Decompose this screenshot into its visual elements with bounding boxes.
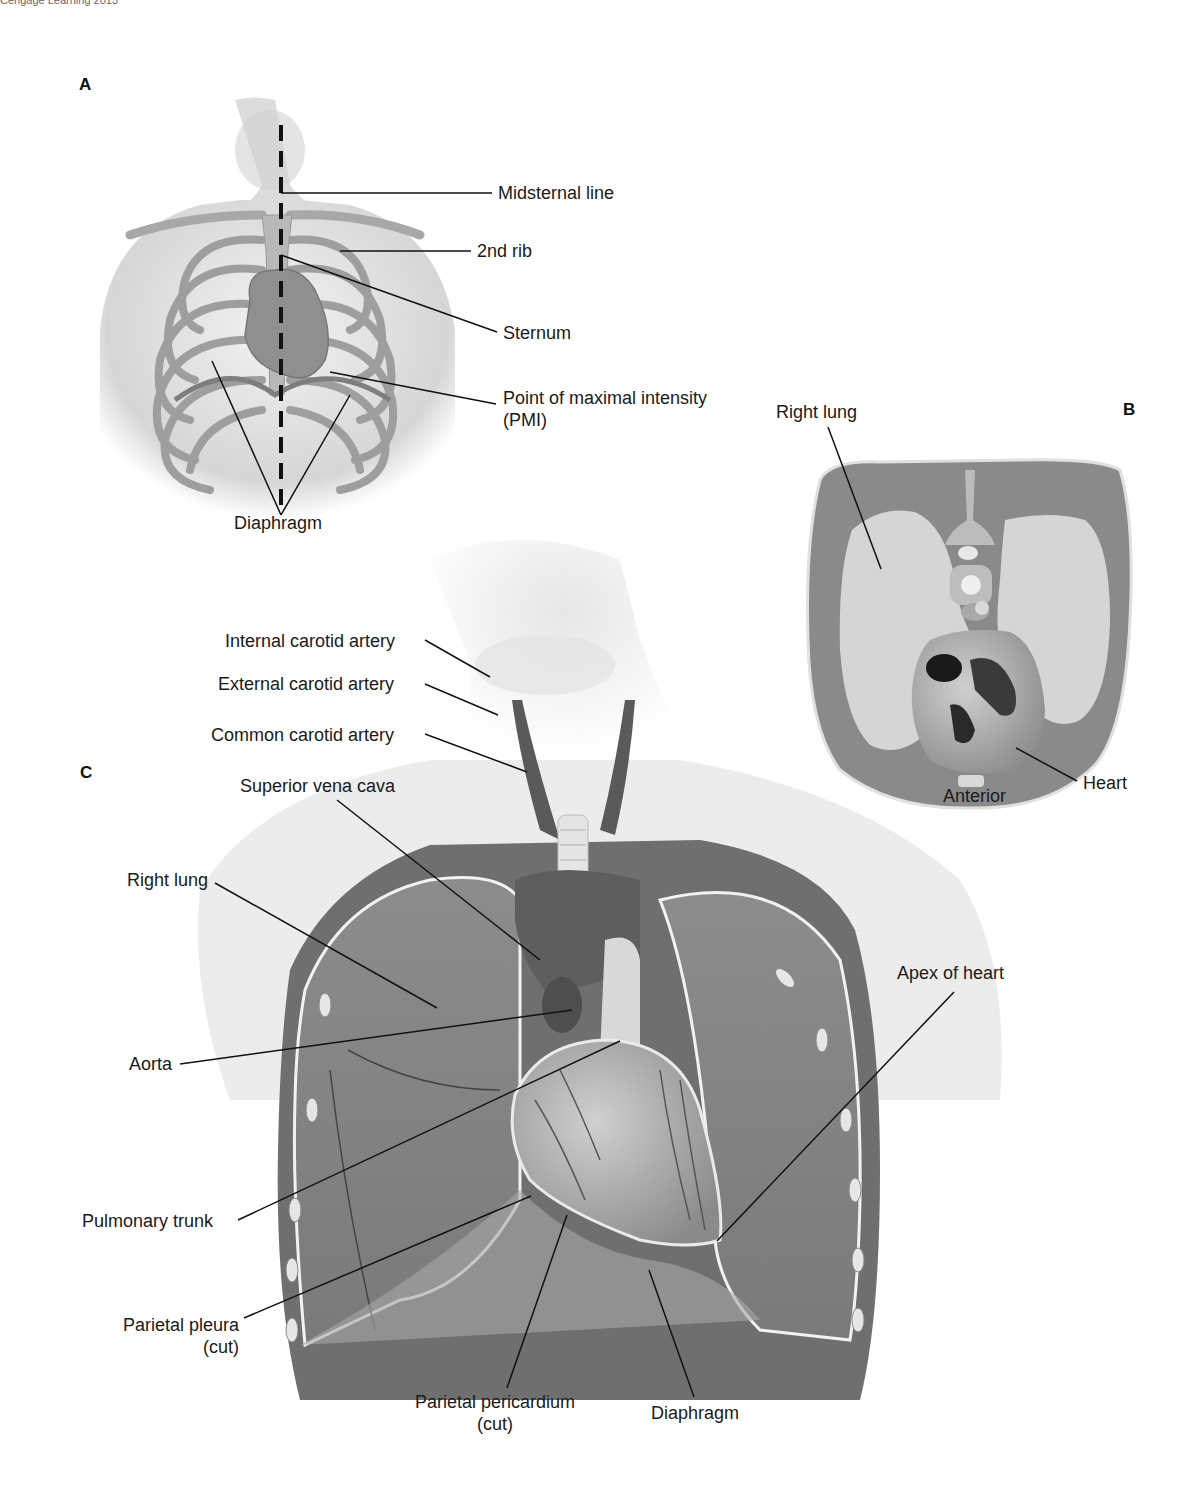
label-common-carotid-artery: Common carotid artery — [211, 724, 394, 746]
label-diaphragm-c: Diaphragm — [651, 1402, 739, 1424]
label-external-carotid-artery: External carotid artery — [218, 673, 394, 695]
label-aorta: Aorta — [129, 1053, 172, 1075]
label-parietal-pericardium-line2: (cut) — [400, 1413, 590, 1435]
label-sternum: Sternum — [503, 322, 571, 344]
label-apex-of-heart: Apex of heart — [897, 962, 1004, 984]
label-internal-carotid-artery: Internal carotid artery — [225, 630, 395, 652]
panel-b-art — [808, 427, 1132, 808]
anatomy-illustration — [0, 0, 1193, 1507]
panel-b-letter: B — [1123, 400, 1135, 420]
label-pmi-line1: Point of maximal intensity — [503, 387, 707, 409]
label-midsternal-line: Midsternal line — [498, 182, 614, 204]
label-pulmonary-trunk: Pulmonary trunk — [82, 1210, 213, 1232]
panel-a-art — [100, 98, 497, 521]
label-anterior-b: Anterior — [943, 785, 1006, 807]
label-right-lung-b: Right lung — [776, 401, 857, 423]
label-pmi: Point of maximal intensity (PMI) — [503, 387, 707, 431]
label-second-rib: 2nd rib — [477, 240, 532, 262]
label-pmi-line2: (PMI) — [503, 409, 707, 431]
panel-a-letter: A — [79, 75, 91, 95]
label-right-lung-c: Right lung — [127, 869, 208, 891]
label-parietal-pleura-line2: (cut) — [104, 1336, 239, 1358]
panel-c-letter: C — [80, 763, 92, 783]
label-heart-b: Heart — [1083, 772, 1127, 794]
label-parietal-pericardium-line1: Parietal pericardium — [400, 1391, 590, 1413]
label-parietal-pericardium: Parietal pericardium (cut) — [400, 1391, 590, 1435]
label-parietal-pleura: Parietal pleura (cut) — [104, 1314, 239, 1358]
label-parietal-pleura-line1: Parietal pleura — [104, 1314, 239, 1336]
label-superior-vena-cava: Superior vena cava — [240, 775, 395, 797]
label-diaphragm-a: Diaphragm — [234, 512, 322, 534]
